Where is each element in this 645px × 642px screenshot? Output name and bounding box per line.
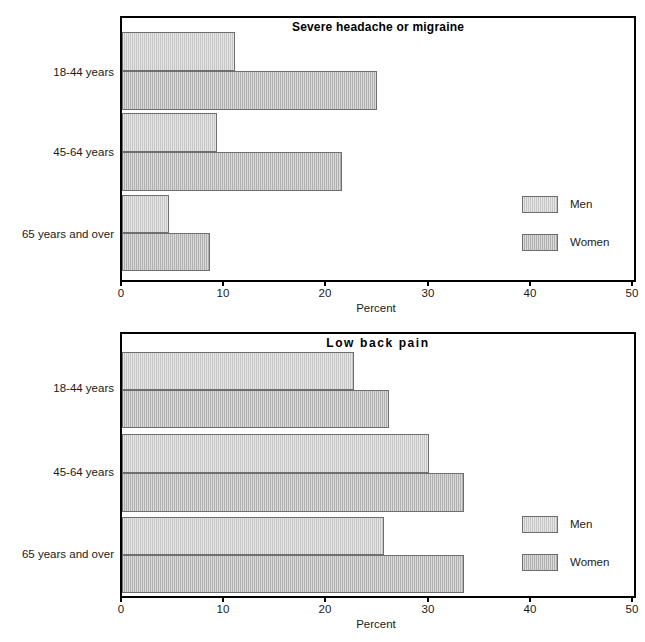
legend-item-women[interactable]: Women xyxy=(522,232,609,252)
x-tick-label-20-b: 20 xyxy=(319,603,332,615)
x-tick-label-20: 20 xyxy=(319,287,332,299)
legend-label-men-b: Men xyxy=(570,518,592,530)
category-label-65-over: 65 years and over xyxy=(0,228,114,240)
plot-area-headache: Severe headache or migraine Men Women xyxy=(120,16,636,282)
x-tick-0 xyxy=(120,280,122,286)
bar-men-45-64[interactable] xyxy=(122,113,217,152)
x-tick-30 xyxy=(427,280,429,286)
category-label-45-64: 45-64 years xyxy=(0,146,114,158)
x-tick-label-40: 40 xyxy=(524,287,537,299)
chart-panel-headache: Percent of adults reporting pain by age … xyxy=(0,0,645,322)
x-tick-label-50-b: 50 xyxy=(626,603,639,615)
x-tick-10 xyxy=(222,280,224,286)
legend-label-men: Men xyxy=(570,198,592,210)
bar-men-65-over[interactable] xyxy=(122,195,169,233)
x-tick-label-30: 30 xyxy=(422,287,435,299)
legend-swatch-women xyxy=(522,234,558,251)
legend-swatch-women-b xyxy=(522,554,558,571)
x-axis-headache: 0 10 20 30 40 50 Percent xyxy=(120,280,636,314)
legend-item-men[interactable]: Men xyxy=(522,194,592,214)
x-tick-0-b xyxy=(120,596,122,602)
bar-men-65-over-b[interactable] xyxy=(122,517,384,555)
legend-item-men-b[interactable]: Men xyxy=(522,514,592,534)
category-label-18-44-b: 18-44 years xyxy=(0,382,114,394)
bar-women-18-44-b[interactable] xyxy=(122,390,389,428)
plot-area-backpain: Low back pain Men Women xyxy=(120,332,636,598)
x-tick-50-b xyxy=(631,596,633,602)
x-tick-label-0: 0 xyxy=(118,287,124,299)
bar-women-45-64[interactable] xyxy=(122,152,342,191)
x-tick-label-30-b: 30 xyxy=(422,603,435,615)
bar-women-65-over[interactable] xyxy=(122,233,210,271)
x-tick-20 xyxy=(324,280,326,286)
legend-swatch-men xyxy=(522,196,558,213)
x-tick-label-40-b: 40 xyxy=(524,603,537,615)
chart-panel-backpain: 18-44 years 45-64 years 65 years and ove… xyxy=(0,322,645,642)
x-axis-title-backpain: Percent xyxy=(120,618,632,630)
x-tick-label-10: 10 xyxy=(217,287,230,299)
category-axis-headache: 18-44 years 45-64 years 65 years and ove… xyxy=(0,16,114,278)
bar-men-18-44-b[interactable] xyxy=(122,352,354,390)
x-tick-label-0-b: 0 xyxy=(118,603,124,615)
category-label-18-44: 18-44 years xyxy=(0,66,114,78)
category-label-65-over-b: 65 years and over xyxy=(0,548,114,560)
x-tick-20-b xyxy=(324,596,326,602)
x-tick-40 xyxy=(529,280,531,286)
bar-men-45-64-b[interactable] xyxy=(122,434,429,473)
category-label-45-64-b: 45-64 years xyxy=(0,466,114,478)
legend-label-women-b: Women xyxy=(570,556,609,568)
bar-men-18-44[interactable] xyxy=(122,32,235,71)
x-tick-label-50: 50 xyxy=(626,287,639,299)
category-axis-backpain: 18-44 years 45-64 years 65 years and ove… xyxy=(0,332,114,594)
legend-swatch-men-b xyxy=(522,516,558,533)
x-tick-40-b xyxy=(529,596,531,602)
bar-women-45-64-b[interactable] xyxy=(122,473,464,512)
bar-women-18-44[interactable] xyxy=(122,71,377,110)
legend-label-women: Women xyxy=(570,236,609,248)
legend-backpain: Men Women xyxy=(522,514,634,574)
bar-women-65-over-b[interactable] xyxy=(122,555,464,593)
legend-item-women-b[interactable]: Women xyxy=(522,552,609,572)
x-tick-50 xyxy=(631,280,633,286)
x-tick-label-10-b: 10 xyxy=(217,603,230,615)
x-axis-backpain: 0 10 20 30 40 50 Percent xyxy=(120,596,636,630)
legend-headache: Men Women xyxy=(522,194,634,254)
x-tick-10-b xyxy=(222,596,224,602)
x-tick-30-b xyxy=(427,596,429,602)
x-axis-title-headache: Percent xyxy=(120,302,632,314)
